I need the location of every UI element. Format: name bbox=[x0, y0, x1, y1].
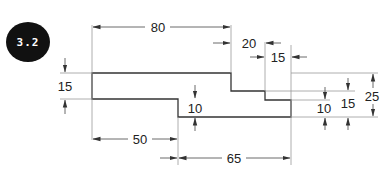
svg-text:10: 10 bbox=[188, 101, 202, 116]
svg-text:15: 15 bbox=[341, 96, 355, 111]
technical-drawing: 3.2 80 20 15 15 bbox=[0, 0, 390, 175]
svg-text:65: 65 bbox=[227, 151, 241, 166]
dim-25: 25 bbox=[365, 74, 379, 116]
extension-lines bbox=[60, 25, 378, 165]
dim-15-left: 15 bbox=[58, 58, 72, 114]
svg-text:15: 15 bbox=[271, 50, 285, 65]
dim-80: 80 bbox=[93, 20, 230, 35]
figure-number-badge: 3.2 bbox=[6, 22, 50, 62]
dim-10-right: 10 bbox=[317, 87, 331, 130]
dim-50: 50 bbox=[93, 132, 177, 147]
svg-text:25: 25 bbox=[365, 89, 379, 104]
badge-label: 3.2 bbox=[17, 36, 40, 49]
svg-text:20: 20 bbox=[242, 36, 256, 51]
dim-15-right: 15 bbox=[341, 78, 355, 130]
dim-20: 20 bbox=[213, 36, 281, 51]
svg-text:80: 80 bbox=[151, 20, 165, 35]
dim-10-bottom-step: 10 bbox=[188, 85, 202, 131]
dim-65: 65 bbox=[160, 151, 290, 166]
svg-text:15: 15 bbox=[58, 79, 72, 94]
svg-text:50: 50 bbox=[133, 132, 147, 147]
dim-15-horizontal: 15 bbox=[250, 50, 307, 65]
svg-text:10: 10 bbox=[317, 101, 331, 116]
